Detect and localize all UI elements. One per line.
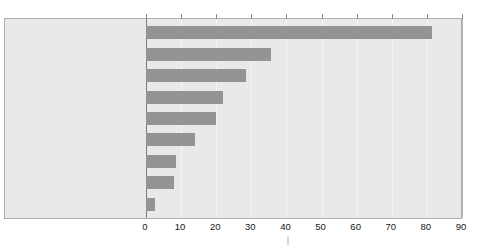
x-tick-label-70: 70 [385, 221, 396, 232]
bar [146, 48, 271, 61]
x-tick-label-10: 10 [175, 221, 186, 232]
bar-row: Paper Clips or Binder Clips [5, 65, 461, 86]
bar-chart: Pens, Pencils, or HighlightersPaper Prod… [0, 0, 478, 250]
bars-layer: Pens, Pencils, or HighlightersPaper Prod… [5, 19, 461, 218]
tick-mark-90 [462, 14, 463, 19]
bar-row: Stapler [5, 86, 461, 107]
x-tick-label-50: 50 [315, 221, 326, 232]
x-tick-label-20: 20 [210, 221, 221, 232]
bar-row: Tape Dispenser [5, 129, 461, 150]
x-tick-label-80: 80 [421, 221, 432, 232]
chart-title [0, 0, 478, 5]
x-tick-label-90: 90 [456, 221, 467, 232]
axis-artifact [287, 236, 289, 245]
x-axis-tick-labels: 0102030405060708090 [4, 221, 462, 237]
bar-row: Scissors [5, 108, 461, 129]
bar [146, 69, 246, 82]
x-tick-label-60: 60 [350, 221, 361, 232]
x-tick-label-30: 30 [245, 221, 256, 232]
plot-panel: Pens, Pencils, or HighlightersPaper Prod… [4, 18, 462, 219]
x-tick-label-0: 0 [142, 221, 147, 232]
gridline-90 [462, 19, 463, 218]
bar-row: Binders [5, 172, 461, 193]
bar [146, 26, 432, 39]
bar [146, 198, 155, 211]
bar [146, 155, 176, 168]
bar-row: Other [5, 194, 461, 215]
bar [146, 112, 216, 125]
bar-row: Pens, Pencils, or Highlighters [5, 22, 461, 43]
bar [146, 133, 195, 146]
bar [146, 91, 223, 104]
bar [146, 176, 174, 189]
x-tick-label-40: 40 [280, 221, 291, 232]
bar-row: Paper Products [5, 43, 461, 64]
bar-row: Printer Ink [5, 151, 461, 172]
